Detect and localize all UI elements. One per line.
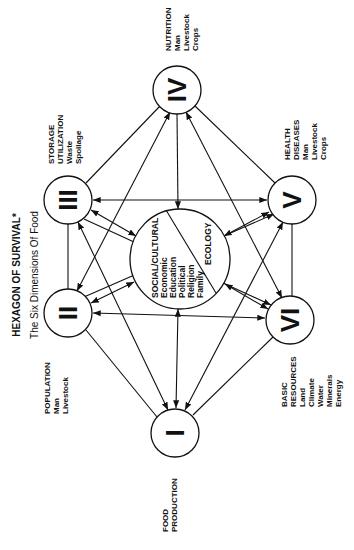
- label-item: Spoilage: [74, 130, 83, 164]
- label-item: Livestock: [61, 377, 70, 414]
- label-heading: STORAGE: [47, 124, 56, 164]
- edge-center-I: [176, 309, 178, 408]
- diagram-title: HEXAGON OF SURVIVAL*: [11, 213, 22, 337]
- label-item: Man: [173, 35, 182, 51]
- label-item: Crops: [319, 136, 328, 160]
- label-heading: UTILIZATION: [56, 115, 65, 164]
- edge-IV-V: [195, 106, 275, 183]
- label-item: Water: [316, 385, 325, 407]
- label-item: Man: [301, 144, 310, 160]
- label-heading: BASIC: [280, 382, 289, 407]
- numeral-III: III: [53, 189, 83, 211]
- hexagon-diagram: HEXAGON OF SURVIVAL* The Six Dimensions …: [0, 0, 354, 550]
- label-heading: FOOD: [161, 509, 170, 532]
- edge-IV-center: [177, 114, 178, 209]
- label-item: Waste: [65, 140, 74, 164]
- label-item: Land: [298, 388, 307, 407]
- title-block: HEXAGON OF SURVIVAL* The Six Dimensions …: [11, 211, 40, 339]
- edge-III-IV: [86, 106, 160, 183]
- center-node: SOCIAL/CULTURAL Economic Education Polit…: [130, 209, 230, 309]
- label-heading: PRODUCTION: [170, 478, 179, 532]
- label-VI: BASIC RESOURCES Land Climate Water Miner…: [280, 356, 343, 407]
- label-heading: RESOURCES: [289, 356, 298, 407]
- label-item: Livestock: [310, 123, 319, 160]
- label-I: FOOD PRODUCTION: [161, 478, 179, 532]
- numeral-V: V: [277, 191, 307, 209]
- node-V: V: [268, 176, 316, 224]
- label-item: Livestock: [182, 14, 191, 51]
- label-item: Climate: [307, 378, 316, 407]
- label-II: POPULATION Man Livestock: [43, 362, 70, 414]
- node-IV: IV: [153, 66, 201, 114]
- label-heading: HEALTH: [283, 128, 292, 160]
- label-heading: POPULATION: [43, 362, 52, 414]
- label-heading: DISEASES: [292, 119, 301, 160]
- label-heading: NUTRITION: [164, 7, 173, 51]
- label-item: Minerals: [325, 374, 334, 407]
- label-IV: NUTRITION Man Livestock Crops: [164, 7, 200, 51]
- edge-I-II: [86, 330, 157, 417]
- label-item: Energy: [334, 379, 343, 407]
- label-item: Crops: [191, 27, 200, 51]
- edge-VI-I: [193, 337, 273, 415]
- center-right-heading: ECOLOGY: [203, 222, 213, 265]
- numeral-II: II: [53, 306, 83, 320]
- diagram-subtitle: The Six Dimensions Of Food: [29, 211, 40, 339]
- node-I: I: [151, 409, 199, 457]
- node-II: II: [44, 289, 92, 337]
- node-VI: VI: [266, 296, 314, 344]
- edge-II-VI: [93, 313, 265, 318]
- center-item: Family: [195, 271, 205, 298]
- numeral-VI: VI: [275, 308, 305, 333]
- label-III: STORAGE UTILIZATION Waste Spoilage: [47, 115, 83, 164]
- label-V: HEALTH DISEASES Man Livestock Crops: [283, 119, 328, 160]
- numeral-I: I: [160, 429, 190, 436]
- numeral-IV: IV: [162, 77, 192, 102]
- node-III: III: [44, 176, 92, 224]
- label-item: Man: [52, 398, 61, 414]
- edge-center-VI: [225, 284, 268, 309]
